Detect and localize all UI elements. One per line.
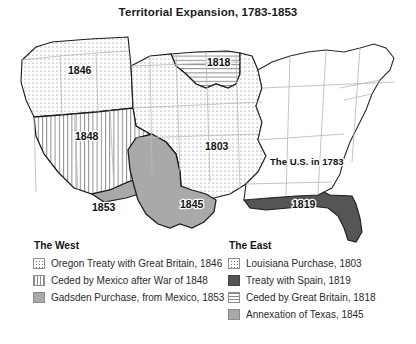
legend-swatch-solid-gray-icon	[33, 292, 45, 303]
legend-item-gadsden-purchase: Gadsden Purchase, from Mexico, 1853	[33, 289, 218, 306]
legend-label-ceded-by-great-britain: Ceded by Great Britain, 1818	[246, 293, 376, 303]
legend-item-louisiana-purchase: Louisiana Purchase, 1803	[228, 255, 413, 272]
legend-label-louisiana-purchase: Louisiana Purchase, 1803	[246, 259, 362, 269]
map-label-texas-1845: 1845	[180, 198, 204, 210]
page-title: Territorial Expansion, 1783-1853	[0, 6, 416, 18]
legend-item-oregon-treaty: Oregon Treaty with Great Britain, 1846	[33, 255, 218, 272]
map-label-british-cession-1818: 1818	[207, 56, 231, 68]
map-legend: The West Oregon Treaty with Great Britai…	[0, 240, 416, 344]
legend-swatch-solid-gray-icon	[228, 309, 240, 320]
territorial-expansion-map: 1846 1818 1848 1803 The U.S. in 1783 185…	[0, 22, 416, 244]
legend-heading-east: The East	[229, 240, 413, 251]
legend-item-annexation-of-texas: Annexation of Texas, 1845	[228, 306, 413, 323]
legend-swatch-dotted-icon	[33, 258, 45, 269]
legend-label-gadsden-purchase: Gadsden Purchase, from Mexico, 1853	[51, 293, 224, 303]
legend-label-oregon-treaty: Oregon Treaty with Great Britain, 1846	[51, 259, 222, 269]
map-label-mexican-cession-1848: 1848	[75, 130, 99, 142]
region-oregon-territory	[21, 37, 133, 117]
legend-item-ceded-by-great-britain: Ceded by Great Britain, 1818	[228, 289, 413, 306]
map-label-us-in-1783: The U.S. in 1783	[270, 156, 344, 167]
map-label-gadsden-1853: 1853	[92, 201, 116, 213]
legend-item-treaty-with-spain: Treaty with Spain, 1819	[228, 272, 413, 289]
legend-label-treaty-with-spain: Treaty with Spain, 1819	[246, 276, 351, 286]
map-label-florida-1819: 1819	[292, 198, 316, 210]
map-canvas: 1846 1818 1848 1803 The U.S. in 1783 185…	[0, 22, 416, 244]
legend-swatch-horizontal-lines-icon	[228, 292, 240, 303]
map-label-oregon-1846: 1846	[68, 64, 92, 76]
legend-item-mexican-cession: Ceded by Mexico after War of 1848	[33, 272, 218, 289]
legend-column-west: The West Oregon Treaty with Great Britai…	[33, 240, 218, 306]
legend-swatch-vertical-lines-icon	[33, 275, 45, 286]
legend-swatch-solid-dark-icon	[228, 275, 240, 286]
legend-swatch-dotted-icon	[228, 258, 240, 269]
legend-column-east: The East Louisiana Purchase, 1803 Treaty…	[228, 240, 413, 323]
legend-heading-west: The West	[34, 240, 218, 251]
legend-label-annexation-of-texas: Annexation of Texas, 1845	[246, 310, 364, 320]
legend-label-mexican-cession: Ceded by Mexico after War of 1848	[51, 276, 208, 286]
map-label-louisiana-1803: 1803	[205, 140, 229, 152]
